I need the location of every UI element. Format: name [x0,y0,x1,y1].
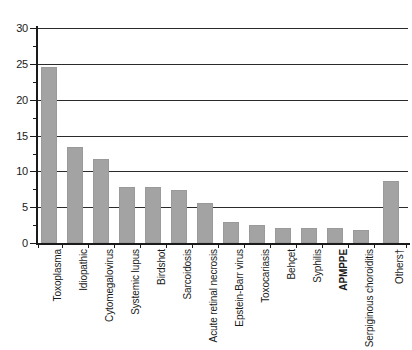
x-label-systemic-lupus: Systemic lupus [131,249,141,315]
x-label-text: Epstein-Barr virus [235,249,245,327]
x-tick-10 [296,243,297,248]
x-tick-5 [166,243,167,248]
x-label-syphilis: Syphilis [313,249,323,283]
x-tick-0 [38,243,39,248]
y-tick-label-20: 20 [0,95,28,106]
x-label-acute-retinal-necrosis: Acute retinal necrosis [209,249,219,342]
x-tick-7 [218,243,219,248]
x-label-serpiginous-choroiditis: Serpiginous choroiditis [365,249,375,347]
x-label-text: Others† [395,249,405,284]
bar-apmppe[interactable] [327,228,343,243]
bar-cytomegalovirus[interactable] [93,159,109,243]
bar-idiopathic[interactable] [67,147,83,243]
x-tick-8 [244,243,245,248]
bars-group [38,28,408,243]
x-tick-3 [114,243,115,248]
x-tick-13 [374,243,375,248]
bar-epstein-barr-virus[interactable] [223,222,239,243]
bar-birdshot[interactable] [145,187,161,243]
bar-toxoplasma[interactable] [41,67,57,243]
x-label-birdshot: Birdshot [157,249,167,285]
x-label-text: Toxocariasis [261,249,271,303]
bar-acute-retinal-necrosis[interactable] [197,203,213,243]
x-label-text: Cytomegalovirus [105,249,115,322]
y-tick-label-15: 15 [0,131,28,142]
x-label-text: Birdshot [157,249,167,285]
x-label-text: Acute retinal necrosis [209,249,219,342]
x-label-others: Others† [395,249,405,284]
bar-others[interactable] [383,181,399,243]
y-tick-label-30: 30 [0,23,28,34]
x-tick-11 [322,243,323,248]
bar-syphilis[interactable] [301,228,317,243]
x-tick-6 [192,243,193,248]
x-tick-9 [270,243,271,248]
bar-chart: 0 5 10 15 20 25 30 [0,0,412,350]
x-label-sarcoidosis: Sarcoidosis [183,249,193,300]
y-tick-label-10: 10 [0,166,28,177]
y-axis-line [36,26,38,245]
x-label-cytomegalovirus: Cytomegalovirus [105,249,115,322]
x-label-text: Toxoplasma [53,249,63,301]
y-tick-label-25: 25 [0,59,28,70]
x-tick-4 [140,243,141,248]
x-label-text: Systemic lupus [131,249,141,315]
x-label-idiopathic: Idiopathic [79,249,89,291]
x-tick-2 [88,243,89,248]
x-label-toxoplasma: Toxoplasma [53,249,63,301]
y-axis-labels: 0 5 10 15 20 25 30 [0,0,28,350]
x-tick-12 [348,243,349,248]
x-label-epstein-barr-virus: Epstein-Barr virus [235,249,245,327]
x-label-text: Idiopathic [79,249,89,291]
x-tick-14 [406,243,407,248]
x-label-text: Sarcoidosis [183,249,193,300]
x-label-text: Serpiginous choroiditis [365,249,375,347]
x-label-apmppe: APMPPE [339,249,349,291]
x-label-text: APMPPE [339,249,349,291]
bar-behcet[interactable] [275,228,291,243]
bar-systemic-lupus[interactable] [119,187,135,243]
x-label-text: Syphilis [313,249,323,283]
y-tick-label-5: 5 [0,202,28,213]
y-tick-label-0: 0 [0,238,28,249]
x-label-text: Behçet [287,249,297,280]
x-axis-labels: Toxoplasma Idiopathic Cytomegalovirus Sy… [38,249,408,350]
bar-sarcoidosis[interactable] [171,190,187,243]
x-label-behcet: Behçet [287,249,297,280]
bar-toxocariasis[interactable] [249,225,265,243]
bar-serpiginous-choroiditis[interactable] [353,230,369,243]
x-tick-1 [62,243,63,248]
x-label-toxocariasis: Toxocariasis [261,249,271,303]
